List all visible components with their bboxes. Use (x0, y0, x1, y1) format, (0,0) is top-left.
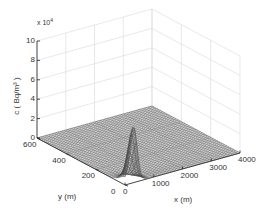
surface-plot (0, 0, 267, 214)
z-axis-label: c ( Bq/m³ ) (13, 71, 21, 121)
y-tick-label: 600 (23, 141, 36, 149)
x-tick-label: 0 (123, 188, 127, 196)
y-tick-label: 400 (52, 157, 65, 165)
y-tick-label: 200 (82, 172, 95, 180)
y-axis-label: y (m) (58, 193, 76, 201)
z-tick-label: 10 (19, 37, 35, 45)
x-tick-label: 4000 (238, 156, 256, 164)
z-tick-label: 2 (19, 115, 35, 123)
z-tick-label: 6 (19, 76, 35, 84)
x-tick-label: 3000 (209, 164, 227, 172)
y-tick-label: 0 (111, 188, 115, 196)
z-multiplier: x 104 (37, 18, 53, 26)
x-axis-label: x (m) (174, 196, 192, 204)
z-tick-label: 4 (19, 95, 35, 103)
x-tick-label: 2000 (181, 172, 199, 180)
x-tick-label: 1000 (152, 180, 170, 188)
z-tick-label: 8 (19, 56, 35, 64)
